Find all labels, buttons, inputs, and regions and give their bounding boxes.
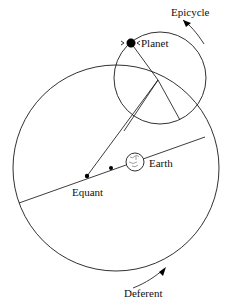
ptolemaic-diagram: Epicycle Planet Earth Equant Deferent	[0, 0, 227, 307]
earth-globe	[126, 153, 144, 171]
label-planet: Planet	[141, 37, 169, 49]
planet-dot-icon	[127, 39, 135, 47]
label-equant: Equant	[72, 186, 103, 198]
planet-left-arrow-icon	[121, 41, 124, 45]
equant-point-marker	[85, 174, 89, 178]
epicycle-center-to-lower-right-line	[158, 80, 180, 120]
label-deferent: Deferent	[124, 287, 162, 299]
deferent-direction-arrow	[133, 267, 166, 288]
diagram-canvas: Epicycle Planet Earth Equant Deferent	[0, 0, 227, 307]
deferent-circle	[13, 65, 219, 271]
apsidal-line	[19, 137, 205, 203]
label-epicycle: Epicycle	[171, 6, 210, 18]
deferent-arrow-head-icon	[159, 267, 166, 276]
label-earth: Earth	[149, 157, 173, 169]
planet-right-arrow-icon	[137, 41, 140, 45]
planet-marker	[121, 39, 140, 47]
deferent-center-point-marker	[109, 166, 113, 170]
equant-to-epicycle-line	[87, 80, 158, 176]
